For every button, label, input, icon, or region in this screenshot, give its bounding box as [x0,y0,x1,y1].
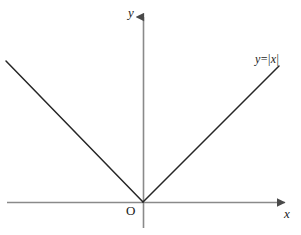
x-axis-label: x [284,207,290,220]
curve-eq-bar-close: | [276,52,279,66]
curve-right-branch [143,66,279,202]
origin-label: O [126,204,135,217]
y-axis-label: y [128,6,134,19]
curve-equation-label: y=|x| [255,53,279,65]
curve-eq-operator: = [261,52,268,66]
curve-left-branch [6,61,143,202]
absolute-value-graph [0,0,301,235]
figure-canvas: y x O y=|x| [0,0,301,235]
